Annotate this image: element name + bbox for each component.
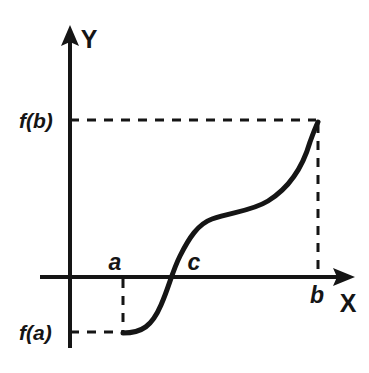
label-point-b: b	[310, 282, 324, 308]
label-f-of-a: f(a)	[19, 321, 52, 344]
dashed-guides	[70, 120, 318, 332]
math-graph-figure: f(b) f(a) a c b X Y	[0, 0, 369, 373]
label-axis-y: Y	[81, 25, 98, 53]
label-f-of-b: f(b)	[19, 109, 53, 132]
label-axis-x: X	[340, 289, 357, 317]
function-curve	[123, 122, 318, 333]
function-curve-group	[123, 122, 318, 333]
label-point-c: c	[188, 249, 201, 275]
graph-canvas: f(b) f(a) a c b X Y	[0, 0, 369, 373]
label-point-a: a	[109, 249, 122, 275]
axes-group	[40, 25, 355, 348]
